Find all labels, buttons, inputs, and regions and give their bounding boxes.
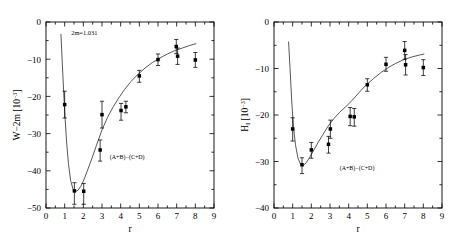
- x-tick-label: 6: [384, 211, 389, 221]
- x-tick-label: 1: [62, 211, 67, 221]
- marker-square: [100, 113, 104, 117]
- x-tick-label: 1: [290, 211, 295, 221]
- y-tick-label: −40: [27, 166, 42, 176]
- marker-square: [138, 74, 142, 78]
- y-tick-label: −40: [255, 203, 270, 213]
- marker-square: [403, 49, 407, 53]
- x-tick-label: 6: [156, 211, 161, 221]
- plot-right-svg: 01234567890−10−20−30−40(A+B)−(C+D)rHI [1…: [228, 0, 455, 251]
- data-point: [403, 42, 407, 60]
- marker-square: [73, 189, 77, 193]
- data-point: [326, 136, 330, 153]
- marker-square: [300, 163, 304, 167]
- x-axis-title: r: [128, 224, 132, 234]
- x-tick-label: 0: [44, 211, 49, 221]
- x-tick-label: 7: [174, 211, 179, 221]
- axes-frame: [46, 22, 214, 208]
- mass-annotation: 2m=1.031: [71, 29, 97, 36]
- marker-square: [366, 83, 370, 87]
- y-tick-label: −30: [27, 129, 42, 139]
- channel-annotation: (A+B)−(C+D): [110, 154, 145, 161]
- x-tick-label: 3: [100, 211, 105, 221]
- x-tick-label: 5: [365, 211, 370, 221]
- marker-square: [327, 143, 331, 147]
- y-tick-label: −10: [27, 55, 42, 65]
- fit-curve: [289, 42, 425, 166]
- data-point: [124, 101, 128, 113]
- marker-square: [353, 115, 357, 119]
- x-tick-label: 0: [272, 211, 277, 221]
- marker-square: [291, 127, 295, 131]
- data-point: [348, 108, 352, 126]
- y-tick-label: −20: [255, 110, 270, 120]
- marker-square: [82, 190, 86, 194]
- axes-frame: [274, 22, 442, 208]
- y-tick-label: −30: [255, 157, 270, 167]
- x-tick-label: 7: [402, 211, 407, 221]
- y-tick-label: 0: [37, 17, 42, 27]
- figure-container: 01234567890−10−20−30−40−502m=1.031(A+B)−…: [0, 0, 455, 251]
- y-tick-label: 0: [265, 17, 270, 27]
- x-tick-label: 8: [421, 211, 426, 221]
- x-tick-label: 4: [346, 211, 351, 221]
- marker-square: [194, 58, 198, 62]
- data-point: [193, 53, 197, 68]
- marker-square: [98, 148, 102, 152]
- data-point: [309, 142, 313, 158]
- x-axis-title: r: [356, 224, 360, 234]
- marker-square: [422, 66, 426, 70]
- y-tick-label: −10: [255, 64, 270, 74]
- chart-panel-left: 01234567890−10−20−30−40−502m=1.031(A+B)−…: [0, 0, 227, 251]
- marker-square: [348, 115, 352, 119]
- data-point: [384, 57, 388, 71]
- x-tick-label: 2: [81, 211, 86, 221]
- plot-left-svg: 01234567890−10−20−30−40−502m=1.031(A+B)−…: [0, 0, 227, 251]
- x-tick-label: 4: [118, 211, 123, 221]
- x-tick-label: 9: [440, 211, 445, 221]
- marker-square: [384, 63, 388, 67]
- marker-square: [329, 127, 333, 131]
- y-axis-title: W−2m [10−3]: [12, 89, 22, 140]
- data-point: [300, 158, 304, 174]
- data-point: [63, 91, 67, 118]
- y-tick-label: −20: [27, 92, 42, 102]
- data-point: [119, 103, 123, 120]
- marker-square: [124, 105, 128, 109]
- x-tick-label: 3: [328, 211, 333, 221]
- data-point: [100, 101, 104, 128]
- data-point: [98, 140, 102, 161]
- data-point: [421, 60, 425, 76]
- marker-square: [404, 63, 408, 67]
- chart-panel-right: 01234567890−10−20−30−40(A+B)−(C+D)rHI [1…: [228, 0, 455, 251]
- x-tick-label: 9: [212, 211, 217, 221]
- svg-text:HI [10−3]: HI [10−3]: [240, 98, 251, 132]
- data-point: [352, 108, 356, 126]
- svg-text:W−2m [10−3]: W−2m [10−3]: [12, 89, 22, 140]
- data-point: [291, 118, 295, 141]
- data-point: [156, 54, 160, 66]
- marker-square: [156, 58, 160, 62]
- data-point: [404, 55, 408, 75]
- x-tick-label: 5: [137, 211, 142, 221]
- data-point: [72, 183, 76, 205]
- x-tick-label: 2: [309, 211, 314, 221]
- marker-square: [119, 109, 123, 113]
- y-axis-title: HI [10−3]: [240, 98, 251, 132]
- y-tick-label: −50: [27, 203, 42, 213]
- data-point: [328, 120, 332, 138]
- marker-square: [63, 103, 67, 107]
- channel-annotation: (A+B)−(C+D): [340, 165, 375, 172]
- data-point: [82, 183, 86, 204]
- marker-square: [176, 54, 180, 58]
- data-point: [365, 79, 369, 92]
- marker-square: [310, 148, 314, 152]
- x-tick-label: 8: [193, 211, 198, 221]
